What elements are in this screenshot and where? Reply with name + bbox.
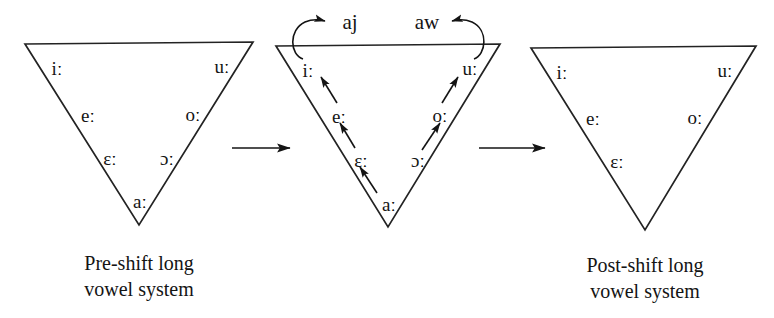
vowel-label-pre-a: aː	[133, 192, 147, 211]
vowel-label-pre-i: iː	[52, 59, 63, 78]
vowel-label-pre-op: ɔː	[160, 149, 174, 168]
vowel-label-pre-u: uː	[214, 57, 229, 76]
vowel-label-post-o: oː	[687, 108, 702, 127]
caption-post-shift-line2: vowel system	[515, 278, 774, 304]
raising-arrow-o-to-u	[442, 77, 458, 103]
vowel-label-pre-eps: ɛː	[103, 149, 117, 168]
raising-arrow-eps-to-e	[340, 123, 355, 148]
diphthong-label-aj: aj	[342, 12, 357, 33]
vowel-label-post-eps: ɛː	[610, 152, 624, 171]
vowel-shift-figure: iː uː eː oː ɛː ɔː aː Pre-shift long vowe…	[0, 0, 774, 318]
diphthong-arrow-aw	[452, 20, 484, 59]
diphthong-label-aw: aw	[415, 12, 440, 33]
diphthong-arrow-aj	[293, 20, 325, 59]
vowel-label-shift-o: oː	[432, 106, 447, 125]
caption-pre-shift-line2: vowel system	[9, 276, 269, 302]
vowel-label-pre-o: oː	[185, 105, 200, 124]
vowel-label-shift-eps: ɛː	[354, 151, 368, 170]
caption-post-shift: Post-shift long vowel system	[515, 252, 774, 305]
vowel-label-pre-e: eː	[81, 106, 95, 125]
caption-pre-shift: Pre-shift long vowel system	[9, 250, 269, 303]
vowel-label-shift-a: aː	[382, 195, 396, 214]
vowel-label-shift-e: eː	[332, 107, 346, 126]
raising-arrow-a-to-eps	[360, 167, 377, 193]
vowel-label-shift-op: ɔː	[411, 151, 425, 170]
raising-arrow-e-to-i	[321, 77, 337, 103]
vowel-label-post-e: eː	[586, 109, 600, 128]
caption-post-shift-line1: Post-shift long	[515, 252, 774, 278]
vowel-label-shift-i: iː	[303, 61, 314, 80]
raising-arrow-op-to-o	[422, 123, 440, 150]
vowel-label-post-u: uː	[717, 61, 732, 80]
caption-pre-shift-line1: Pre-shift long	[9, 250, 269, 276]
vowel-label-post-i: iː	[557, 63, 568, 82]
vowel-label-shift-u: uː	[462, 59, 477, 78]
